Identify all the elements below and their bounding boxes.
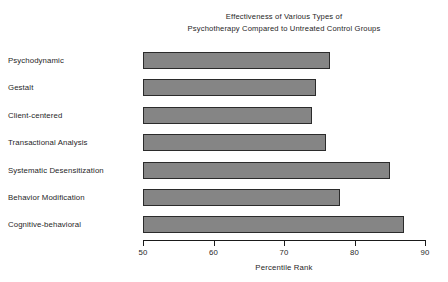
bar <box>143 216 404 233</box>
bar-row <box>143 79 425 96</box>
y-axis-label: Transactional Analysis <box>8 134 136 151</box>
bar-row <box>143 162 425 179</box>
x-axis-tick-label: 80 <box>335 248 375 257</box>
y-axis-category-labels: PsychodynamicGestaltClient-centeredTrans… <box>8 48 136 240</box>
bar-row <box>143 134 425 151</box>
y-axis-label: Psychodynamic <box>8 52 136 69</box>
x-axis-tick <box>284 240 285 246</box>
y-axis-label: Cognitive-behavioral <box>8 216 136 233</box>
y-axis-label: Client-centered <box>8 107 136 124</box>
x-axis-tick-label: 60 <box>194 248 234 257</box>
x-axis-tick-label: 90 <box>405 248 445 257</box>
y-axis-label: Systematic Desensitization <box>8 162 136 179</box>
bar <box>143 134 326 151</box>
bar-row <box>143 107 425 124</box>
x-axis-tick-label: 70 <box>264 248 304 257</box>
bar-row <box>143 216 425 233</box>
chart-title-line-2: Psychotherapy Compared to Untreated Cont… <box>143 23 425 35</box>
x-axis-tick <box>143 240 144 246</box>
bar <box>143 189 340 206</box>
y-axis-label: Gestalt <box>8 79 136 96</box>
x-axis-tick <box>355 240 356 246</box>
bar <box>143 107 312 124</box>
x-axis-tick-label: 50 <box>123 248 163 257</box>
chart-title-line-1: Effectiveness of Various Types of <box>143 11 425 23</box>
y-axis-label: Behavior Modification <box>8 189 136 206</box>
bar <box>143 162 390 179</box>
x-axis-tick <box>425 240 426 246</box>
x-axis-tick <box>214 240 215 246</box>
bar-row <box>143 189 425 206</box>
bar <box>143 52 330 69</box>
plot-area <box>143 48 425 240</box>
bar <box>143 79 316 96</box>
bar-row <box>143 52 425 69</box>
bar-chart-figure: Effectiveness of Various Types of Psycho… <box>0 0 448 282</box>
chart-title: Effectiveness of Various Types of Psycho… <box>143 11 425 34</box>
x-axis-title: Percentile Rank <box>143 263 425 272</box>
